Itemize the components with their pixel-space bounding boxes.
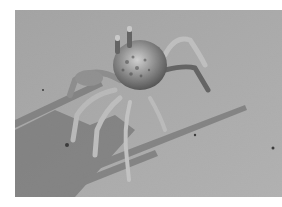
- crab-illustration: [15, 10, 282, 197]
- crab-photo: [15, 10, 282, 197]
